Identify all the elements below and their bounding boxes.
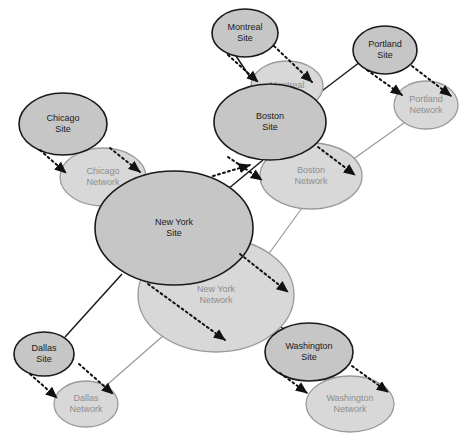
chicago-site-ellipse[interactable] — [19, 93, 107, 155]
network-link-new-york-network-to-dallas-network — [108, 335, 164, 384]
diagram-canvas: MontrealPortlandNetworkBostonNetworkChic… — [0, 0, 473, 443]
network-link-boston-network-to-portland-network — [352, 123, 404, 160]
portland-site-ellipse[interactable] — [353, 26, 417, 74]
site-link-new-york-site-to-boston-site — [228, 160, 263, 189]
washington-network-ellipse[interactable] — [306, 376, 394, 432]
site-link-new-york-site-to-dallas-site — [65, 274, 122, 337]
dotted-link-new-york-site-to-boston-network — [213, 165, 250, 176]
dotted-link-dallas-site-to-dallas-network — [30, 374, 57, 398]
network-topology-diagram: MontrealPortlandNetworkBostonNetworkChic… — [0, 0, 473, 443]
dotted-link-boston-site-to-new-york-network — [228, 157, 262, 180]
node-chicago-site[interactable]: ChicagoSite — [19, 93, 107, 155]
node-boston-site[interactable]: BostonSite — [214, 84, 326, 160]
new-york-site-ellipse[interactable] — [95, 171, 253, 285]
washington-site-ellipse[interactable] — [265, 323, 353, 381]
node-portland-site[interactable]: PortlandSite — [353, 26, 417, 74]
dallas-network-ellipse[interactable] — [54, 381, 118, 427]
network-link-new-york-network-to-boston-network — [265, 208, 302, 259]
node-dallas-network[interactable]: DallasNetwork — [54, 381, 118, 427]
node-washington-site[interactable]: WashingtonSite — [265, 323, 353, 381]
node-new-york-site[interactable]: New YorkSite — [95, 171, 253, 285]
node-portland-network[interactable]: PortlandNetwork — [394, 81, 458, 129]
boston-site-ellipse[interactable] — [214, 84, 326, 160]
montreal-site-ellipse[interactable] — [212, 9, 278, 57]
node-montreal-site[interactable]: MontrealSite — [212, 9, 278, 57]
portland-network-ellipse[interactable] — [394, 81, 458, 129]
node-dallas-site[interactable]: DallasSite — [14, 332, 74, 376]
node-washington-network[interactable]: WashingtonNetwork — [306, 376, 394, 432]
dallas-site-ellipse[interactable] — [14, 332, 74, 376]
